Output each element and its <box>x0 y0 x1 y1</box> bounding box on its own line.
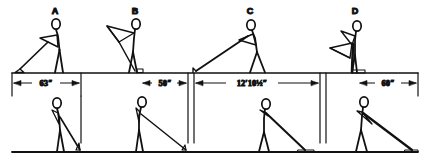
front-leg-a-lower <box>60 130 64 152</box>
front-leg-d-lower <box>361 130 367 152</box>
front-leg-a <box>60 50 64 73</box>
arrowhead-right-12ft <box>311 81 318 86</box>
implement-shaft-c-lower <box>266 113 305 150</box>
implement-head-c-lower <box>298 150 314 152</box>
torso-d <box>355 32 356 56</box>
pose-label-d: D <box>352 6 359 16</box>
stick-figure-c-lower <box>259 99 314 152</box>
stick-figure-a <box>15 19 63 73</box>
arrowhead-right-60in <box>409 81 416 86</box>
implement-shaft-a <box>20 42 48 69</box>
implement-head-a <box>15 69 24 73</box>
head-a <box>52 19 60 29</box>
arrowhead-left-12ft <box>196 81 203 86</box>
implement-head-d <box>352 70 365 73</box>
implement-wedge-d <box>330 43 352 58</box>
head-b <box>132 19 140 29</box>
pose-label-b: B <box>132 6 139 16</box>
rear-leg-a <box>55 50 60 73</box>
implement-shaft-c <box>196 36 248 71</box>
arrowhead-left-60in <box>360 81 367 86</box>
rear-leg-c-lower <box>259 132 264 152</box>
front-leg-c-lower <box>264 132 269 152</box>
dimension-group-63in: 63″ <box>14 77 79 89</box>
pose-label-a: A <box>52 6 59 16</box>
front-leg-c <box>257 52 265 73</box>
stick-figure-b-lower <box>136 97 186 152</box>
torso-d-lower <box>361 108 363 131</box>
arrowhead-right-50in <box>179 81 186 86</box>
rear-leg-d-lower <box>356 130 361 152</box>
stick-figure-d <box>330 21 365 73</box>
arrowhead-left-63in <box>14 81 21 86</box>
head-a-lower <box>53 98 61 108</box>
implement-head-b <box>137 69 143 73</box>
implement-shaft-d-lower <box>363 113 412 150</box>
head-b-lower <box>138 97 146 107</box>
head-c-lower <box>262 99 270 109</box>
dimension-group-12ft: 12′10½″ <box>196 77 318 89</box>
figure-container: A B C D <box>0 0 428 166</box>
dimension-group-60in: 60″ <box>360 77 416 89</box>
head-d <box>353 21 361 31</box>
arm-triangle-b-lower <box>136 108 140 122</box>
rear-leg-c <box>250 52 257 73</box>
stick-figure-d-lower <box>356 97 418 152</box>
arrowhead-right-63in <box>72 81 79 86</box>
dimension-label-12ft: 12′10½″ <box>237 78 267 88</box>
stick-figure-c <box>193 20 265 73</box>
head-c <box>247 20 255 30</box>
implement-edge-d <box>330 48 350 58</box>
dimension-group-50in: 50″ <box>143 77 186 89</box>
implement-wedge-b <box>107 26 134 42</box>
stick-figure-a-lower <box>52 98 80 152</box>
rear-leg-a-lower <box>57 130 60 152</box>
arm-triangle-a <box>40 35 58 47</box>
rear-leg-b-lower <box>136 130 139 152</box>
stick-figure-diagram: A B C D <box>0 0 428 166</box>
stick-figure-b <box>107 19 143 73</box>
dimension-label-63in: 63″ <box>39 78 52 88</box>
pose-label-c: C <box>247 6 254 16</box>
arrowhead-left-50in <box>143 81 150 86</box>
dimension-label-50in: 50″ <box>158 78 171 88</box>
implement-shaft-b-lower <box>141 114 186 150</box>
dimension-label-60in: 60″ <box>381 78 394 88</box>
front-leg-b-lower <box>139 130 143 152</box>
head-d-lower <box>360 97 368 107</box>
